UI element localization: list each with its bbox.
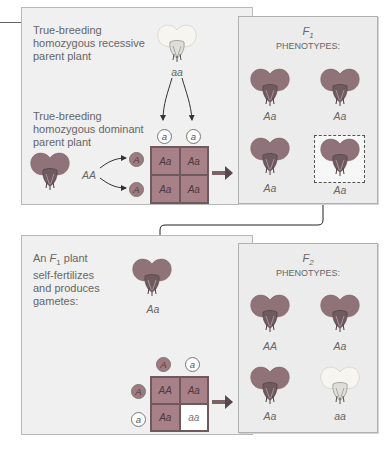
f2-genotype: Aa bbox=[326, 340, 354, 352]
f2-genotype: aa bbox=[326, 410, 354, 422]
white-flower-icon bbox=[318, 366, 362, 406]
purple-flower-icon bbox=[248, 366, 292, 406]
f2-genotype: Aa bbox=[256, 410, 284, 422]
gen-sub: 2 bbox=[309, 258, 313, 267]
purple-flower-icon bbox=[248, 294, 292, 334]
f2-title-text: PHENOTYPES: bbox=[239, 268, 377, 279]
f2-genotype: AA bbox=[256, 340, 284, 352]
purple-flower-icon bbox=[318, 294, 362, 334]
f2-title: F2 bbox=[239, 253, 377, 268]
